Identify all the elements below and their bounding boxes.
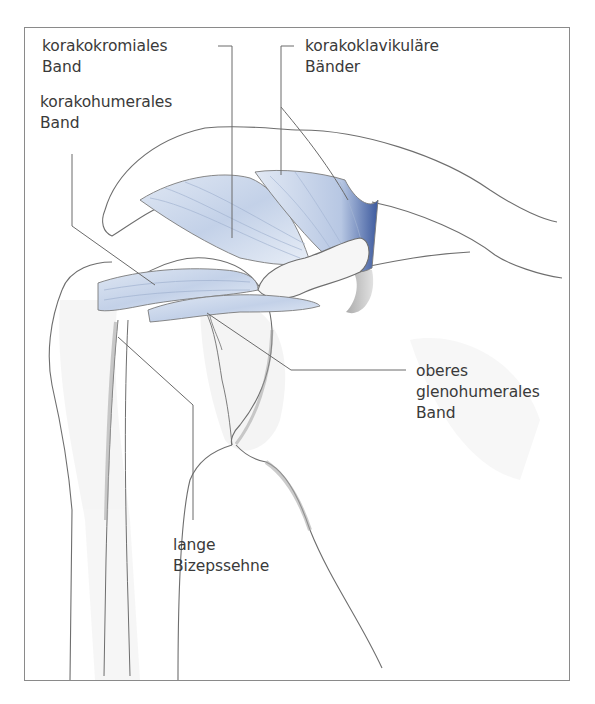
label-lange-bizepssehne: lange Bizepssehne	[173, 535, 269, 577]
bone-shading	[59, 299, 540, 681]
label-korakoakromiales-band: korakokromiales Band	[42, 36, 168, 78]
label-korakoklavikulaere-baender: korakoklavikuläre Bänder	[305, 36, 439, 78]
shoulder-ligament-figure: korakokromiales Band korakohumerales Ban…	[0, 0, 595, 704]
label-oberes-glenohumerales-band: oberes glenohumerales Band	[416, 361, 540, 424]
label-korakohumerales-band: korakohumerales Band	[40, 92, 172, 134]
